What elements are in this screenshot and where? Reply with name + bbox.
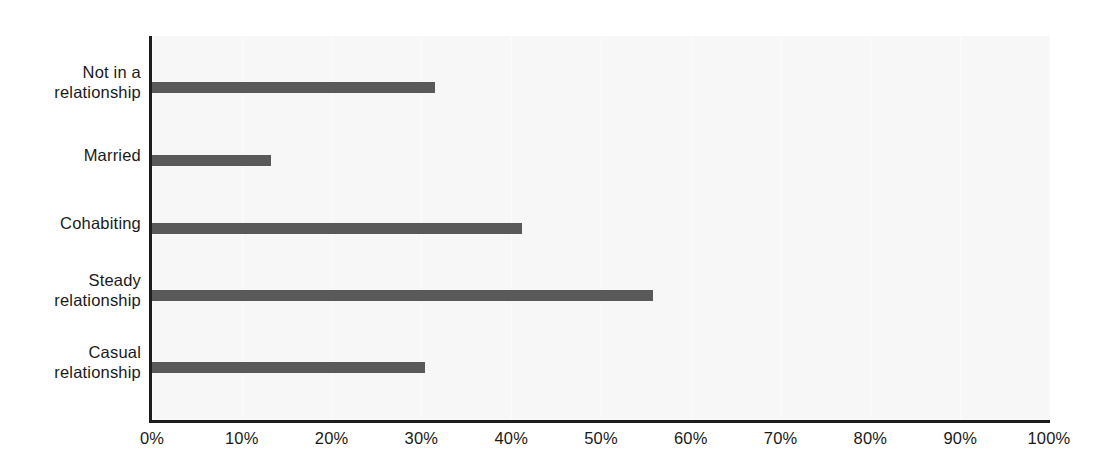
bar-cohabiting [152, 223, 522, 234]
gridline [601, 36, 602, 422]
bar-steady-relationship [152, 290, 653, 301]
xtick-label-50: 50% [561, 428, 641, 448]
xtick-label-0: 0% [112, 428, 192, 448]
xtick-label-20: 20% [292, 428, 372, 448]
bar-casual-relationship [152, 362, 425, 373]
xtick-label-70: 70% [741, 428, 821, 448]
xtick-label-30: 30% [381, 428, 461, 448]
gridline [781, 36, 782, 422]
x-axis-line [149, 420, 1050, 423]
ytick-label-not-in-a-relationship: Not in a relationship [0, 63, 141, 102]
xtick-label-10: 10% [202, 428, 282, 448]
xtick-label-80: 80% [830, 428, 910, 448]
ytick-label-casual-relationship: Casual relationship [0, 343, 141, 382]
gridline [691, 36, 692, 422]
xtick-label-100: 100% [1009, 428, 1089, 448]
xtick-label-90: 90% [920, 428, 1000, 448]
xtick-label-40: 40% [471, 428, 551, 448]
plot-area [152, 36, 1050, 422]
xtick-label-60: 60% [651, 428, 731, 448]
ytick-label-married: Married [0, 146, 141, 166]
y-axis-line [149, 36, 152, 422]
ytick-label-steady-relationship: Steady relationship [0, 271, 141, 310]
ytick-label-cohabiting: Cohabiting [0, 214, 141, 234]
gridline [1049, 36, 1050, 422]
bar-chart: Not in a relationship Married Cohabiting… [0, 0, 1102, 464]
bar-not-in-a-relationship [152, 82, 435, 93]
gridline [870, 36, 871, 422]
gridline [960, 36, 961, 422]
bar-married [152, 155, 271, 166]
